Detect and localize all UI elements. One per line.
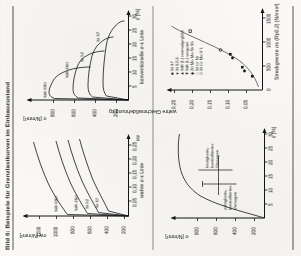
chart1-ytick-1000: 1000 <box>53 227 58 237</box>
rotated-plate: Bild 6: Beispiele für Grenzlastkurven im… <box>0 0 301 256</box>
chart4-yaxis-title: wahre Gleichmaßdehnung εg <box>109 109 176 115</box>
legend-label-3: StE (L) vergütet <box>184 42 189 71</box>
chart1-ytick-800: 800 <box>70 226 75 234</box>
chart3-xtick-15: 15 <box>268 174 273 179</box>
chart3-annotation-zaehigkeit: zähigkeits- kontrolliertes Versagen <box>222 180 237 210</box>
chart1-ytick-600: 600 <box>87 226 92 234</box>
chart4-xtick-1500: 1500 <box>266 14 271 24</box>
chart1-xtick-005: 0,05 <box>132 198 137 207</box>
chart4-ytick-025: 0,25 <box>171 100 176 109</box>
legend-label-2: StE (L) normalgeglüht <box>179 30 184 71</box>
legend-label-6: St Cr Mo V L <box>198 47 203 71</box>
legend-label-0: St 37 <box>169 61 174 71</box>
chart-wahre-sigma-epsilon: 200 400 600 800 1000 1200 0,05 0,10 0,15… <box>20 132 145 242</box>
chart1-curve-label-st52: St 52 <box>84 199 89 209</box>
chart3-ytick-400: 400 <box>232 227 237 235</box>
chart2-xtick-20: 20 <box>132 42 137 47</box>
chart1-ytick-200: 200 <box>121 226 126 234</box>
chart2-curve-label-st37: St 37 <box>95 32 100 42</box>
chart2-curve-label-st52: St 52 <box>79 52 84 62</box>
chart2-curve-label-ste690: StE 690 <box>42 82 47 98</box>
scanned-page: Bild 6: Beispiele für Grenzlastkurven im… <box>0 0 301 256</box>
chart2-ytick-600: 600 <box>71 109 76 117</box>
chart1-yaxis-title: σw [N/mm²] <box>19 233 46 239</box>
chart4-ytick-010: 0,10 <box>225 100 230 109</box>
chart2-xtick-15: 15 <box>132 56 137 61</box>
chart1-ytick-400: 400 <box>104 226 109 234</box>
chart1-xaxis-title: wahre σ-ε Linie <box>138 163 144 198</box>
chart-versagensgrenze: 200 400 600 800 5 10 15 20 25 30 zähigke… <box>162 124 287 242</box>
paper-sheet: Bild 6: Beispiele für Grenzlastkurven im… <box>0 0 301 256</box>
legend-marker-square-open: □ <box>199 71 204 76</box>
figure-caption: Bild 6: Beispiele für Grenzlastkurven im… <box>3 6 10 250</box>
chart1-xtick-010: 0,10 <box>132 184 137 193</box>
chart4-legend: ■St 37 ●St 52-3 ▲StE (L) normalgeglüht ▼… <box>170 30 204 76</box>
chart4-xtick-1000: 1000 <box>266 38 271 48</box>
chart2-curve-label-ste460: StE 460 <box>64 62 69 78</box>
chart1-xtick-020: 0,20 <box>132 156 137 165</box>
chart2-ytick-800: 800 <box>50 109 55 117</box>
chart2-yaxis-title: σ [N/mm²] <box>23 116 46 122</box>
chart3-xtick-20: 20 <box>268 160 273 165</box>
legend-label-4: 20 Mn Mo Ni 55 <box>189 41 194 71</box>
chart1-curve-label-ste690: StE 690 <box>53 196 58 212</box>
bottom-divider-rule <box>292 6 293 250</box>
chart4-ytick-005: 0,05 <box>243 100 248 109</box>
chart4-xtick-0: 0 <box>266 88 271 91</box>
chart4-ytick-020: 0,20 <box>189 100 194 109</box>
chart-gleichmassdehnung: 0,05 0,10 0,15 0,20 0,25 0 500 1000 1500… <box>162 4 287 120</box>
chart3-xtick-10: 10 <box>268 188 273 193</box>
chart2-xaxis-title: konventionelle σ-ε Linie <box>138 30 144 84</box>
legend-label-5: St Cr Ni <box>194 56 199 71</box>
chart3-xaxis-unit: ε [%] <box>270 127 276 138</box>
chart4-ytick-015: 0,15 <box>207 100 212 109</box>
middle-divider-rule <box>152 6 153 250</box>
chart3-annotation-festigkeit: festigkeits- kontrolliertes Versagen <box>204 134 219 168</box>
chart-konventionelle-sigma-epsilon: 200 400 600 800 5 10 15 20 25 30 StE 690… <box>20 6 145 124</box>
chart3-ytick-600: 600 <box>213 227 218 235</box>
chart3-ytick-800: 800 <box>194 227 199 235</box>
legend-item-6: □St Cr Mo V L <box>199 30 204 76</box>
chart1-xtick-015: 0,15 <box>132 170 137 179</box>
chart2-xtick-10: 10 <box>132 70 137 75</box>
chart4-xtick-500: 500 <box>266 63 271 71</box>
chart2-ytick-400: 400 <box>92 109 97 117</box>
chart3-yaxis-title: σ [N/mm²] <box>165 234 188 240</box>
chart1-curve-label-ste460: StE 460 <box>73 195 78 211</box>
legend-label-1: St 52-3 <box>174 57 179 71</box>
chart2-xtick-5: 5 <box>132 85 137 88</box>
chart1-curve-label-st37: St 37 <box>94 198 99 208</box>
chart2-plot <box>20 6 145 124</box>
chart3-xtick-25: 25 <box>268 146 273 151</box>
chart1-xaxis-symbol: εw <box>134 135 140 141</box>
top-divider-rule <box>12 6 13 250</box>
chart3-ytick-200: 200 <box>251 227 256 235</box>
chart4-xaxis-title: Streckgrenze σs (Rp0,2) [N/mm²] <box>273 4 279 80</box>
chart1-xtick-025: 0,25 <box>132 142 137 151</box>
chart2-xaxis-unit: ε [%] <box>134 9 140 20</box>
chart3-xtick-5: 5 <box>268 203 273 206</box>
chart2-xtick-25: 25 <box>132 28 137 33</box>
